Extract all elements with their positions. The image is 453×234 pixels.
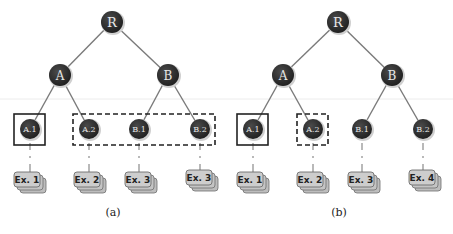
svg-text:Ex. 3: Ex. 3	[187, 173, 212, 183]
example-stack-2: Ex. 2	[74, 172, 106, 193]
panel-a: R A B A.1 A.2 B.1	[14, 11, 218, 219]
svg-text:B.1: B.1	[355, 125, 369, 134]
svg-text:Ex. 1: Ex. 1	[15, 175, 40, 185]
example-stack-2: Ex. 2	[297, 172, 329, 193]
svg-text:B: B	[388, 69, 397, 83]
svg-text:Ex. 2: Ex. 2	[298, 175, 323, 185]
example-stack-1: Ex. 1	[14, 172, 46, 193]
leaf-a1: A.1	[20, 119, 42, 141]
svg-text:R: R	[333, 15, 344, 30]
node-root-r: R	[101, 11, 125, 35]
leaf-b1: B.1	[352, 119, 374, 141]
svg-text:Ex. 2: Ex. 2	[75, 175, 100, 185]
node-b: B	[157, 64, 181, 88]
panel-caption: (a)	[105, 206, 120, 219]
panel-caption: (b)	[331, 206, 347, 219]
svg-text:Ex. 4: Ex. 4	[410, 173, 435, 183]
leaf-b2: B.2	[190, 119, 212, 141]
svg-text:B.2: B.2	[416, 125, 430, 134]
tree-diagram-figure: R A B A.1 A.2 B.1	[0, 0, 453, 234]
panel-a-connectors	[30, 143, 200, 172]
svg-text:B: B	[164, 69, 173, 83]
example-stack-3: Ex. 3	[348, 172, 380, 193]
svg-text:Ex. 3: Ex. 3	[126, 175, 151, 185]
node-a: A	[49, 64, 73, 88]
svg-text:A: A	[55, 69, 65, 83]
example-stack-4: Ex. 3	[186, 170, 218, 191]
example-stack-1: Ex. 1	[237, 172, 269, 193]
svg-text:Ex. 3: Ex. 3	[349, 175, 374, 185]
leaf-b1: B.1	[129, 119, 151, 141]
svg-text:B.1: B.1	[132, 125, 146, 134]
node-root-r: R	[327, 11, 351, 35]
leaf-a1: A.1	[243, 119, 265, 141]
example-stack-3: Ex. 3	[125, 172, 157, 193]
example-stack-4: Ex. 4	[409, 170, 441, 191]
node-a: A	[272, 64, 296, 88]
svg-text:B.2: B.2	[193, 125, 207, 134]
svg-text:A.2: A.2	[305, 125, 319, 134]
svg-text:Ex. 1: Ex. 1	[238, 175, 263, 185]
svg-text:A.1: A.1	[245, 125, 259, 134]
leaf-a2: A.2	[79, 119, 101, 141]
svg-text:A.1: A.1	[22, 125, 36, 134]
svg-text:A.2: A.2	[81, 125, 95, 134]
svg-text:A: A	[278, 69, 288, 83]
leaf-a2: A.2	[303, 119, 325, 141]
panel-b: R A B A.1 A.2 B.1 B	[237, 11, 441, 219]
node-label: R	[107, 15, 118, 30]
leaf-b2: B.2	[413, 119, 435, 141]
panel-b-connectors	[253, 143, 423, 172]
node-b: B	[381, 64, 405, 88]
